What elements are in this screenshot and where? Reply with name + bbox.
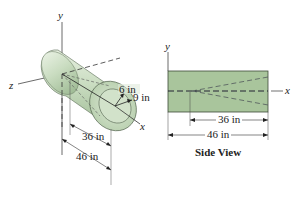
diagram-canvas: y z x 6 in 9 in 36 in 46 in y x 36 in 46… (0, 0, 307, 199)
arrowhead (106, 142, 111, 146)
arrowhead (106, 166, 111, 170)
y-axis-label-iso: y (57, 9, 63, 21)
arrowhead (70, 124, 75, 128)
isometric-view: y z x 6 in 9 in 36 in 46 in (8, 9, 150, 185)
arrowhead (168, 133, 173, 137)
side-view-title: Side View (195, 146, 241, 158)
y-axis-label-side: y (164, 40, 170, 52)
arrowhead (62, 139, 67, 143)
outer-radius-label: 9 in (133, 91, 150, 103)
arrowhead (263, 118, 268, 122)
z-axis-label-iso: z (8, 79, 14, 91)
dim-36-label-side: 36 in (218, 113, 241, 125)
dim-46-label-iso: 46 in (76, 150, 99, 162)
dim-36-label-iso: 36 in (82, 130, 105, 142)
arrowhead (190, 118, 195, 122)
side-view: y x 36 in 46 in Side View (164, 40, 290, 158)
x-axis-label-side: x (284, 84, 290, 96)
arrowhead (263, 133, 268, 137)
x-axis-label-iso: x (139, 120, 145, 132)
dim-46-label-side: 46 in (207, 128, 230, 140)
